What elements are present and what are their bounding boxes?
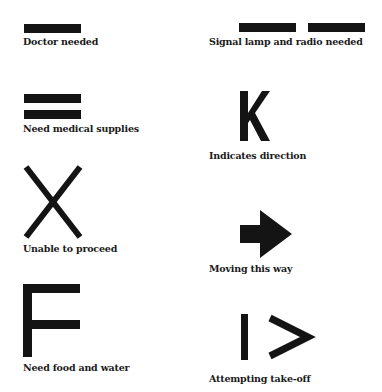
chevron-right-icon: [268, 315, 312, 359]
signal-label-medical: Need medical supplies: [23, 123, 139, 134]
signal-label-doctor: Doctor needed: [23, 36, 98, 47]
letter-f-icon: [23, 284, 81, 358]
signal-label-direction: Indicates direction: [209, 150, 306, 161]
bar-right-icon: [308, 23, 365, 32]
signal-label-food-water: Need food and water: [23, 362, 129, 373]
signal-label-unable: Unable to proceed: [23, 243, 117, 254]
double-bar-top-icon: [24, 94, 81, 103]
signal-label-lamp-radio: Signal lamp and radio needed: [209, 36, 363, 47]
vertical-bar-icon: [241, 314, 248, 360]
arrow-right-icon: [240, 210, 292, 258]
letter-x-icon: [24, 165, 82, 239]
double-bar-bottom-icon: [24, 110, 81, 119]
letter-k-icon: [240, 91, 270, 141]
signal-label-moving: Moving this way: [209, 263, 292, 274]
single-bar-icon: [24, 24, 81, 33]
signal-label-takeoff: Attempting take-off: [209, 373, 310, 384]
bar-left-icon: [239, 23, 296, 32]
